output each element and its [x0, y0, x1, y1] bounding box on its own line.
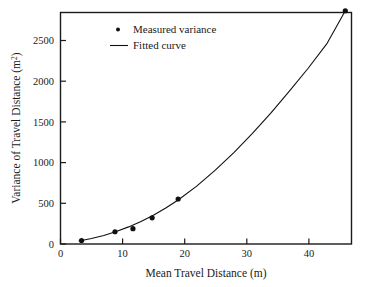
chart-canvas: 0 10 20 30 40 0 500 1000 1500 2000 2500 …: [0, 0, 368, 287]
x-tick-label-40: 40: [304, 248, 315, 259]
y-axis-title-main: Variance of Travel Distance (m: [10, 60, 23, 204]
data-point: [112, 229, 117, 234]
legend-dot-icon: [116, 28, 120, 32]
y-axis-title-tail: ): [10, 52, 23, 56]
x-tick-label-0: 0: [58, 248, 63, 259]
x-axis-title: Mean Travel Distance (m): [145, 267, 266, 280]
data-point: [79, 238, 84, 243]
data-point: [176, 196, 181, 201]
legend-label-measured: Measured variance: [133, 23, 216, 35]
x-tick-label-20: 20: [179, 248, 190, 259]
x-tick-label-10: 10: [117, 248, 128, 259]
data-point: [343, 8, 348, 13]
y-tick-label-500: 500: [38, 198, 54, 209]
y-tick-label-1000: 1000: [33, 157, 54, 168]
data-point: [130, 226, 135, 231]
y-tick-label-2500: 2500: [33, 35, 54, 46]
x-tick-label-30: 30: [242, 248, 253, 259]
data-point: [150, 215, 155, 220]
y-tick-label-0: 0: [49, 239, 54, 250]
y-axis-title: Variance of Travel Distance (m2): [10, 52, 24, 203]
y-tick-label-2000: 2000: [33, 76, 54, 87]
legend-label-fitted: Fitted curve: [133, 39, 186, 51]
y-tick-label-1500: 1500: [33, 117, 54, 128]
chart-figure: 0 10 20 30 40 0 500 1000 1500 2000 2500 …: [0, 0, 368, 287]
svg-text:Variance of Travel Distance (m: Variance of Travel Distance (m2): [10, 52, 24, 203]
